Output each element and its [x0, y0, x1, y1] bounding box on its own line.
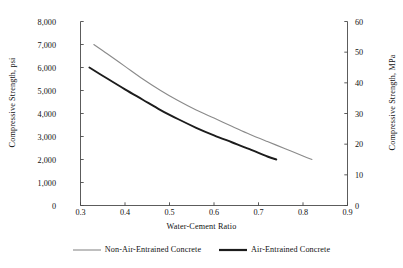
- legend-item-1[interactable]: Air-Entrained Concrete: [219, 245, 330, 254]
- legend-line-swatch: [73, 246, 101, 254]
- data-series-group: [89, 45, 312, 160]
- chart-figure: Compressive Strength, psi Compressive St…: [0, 0, 403, 268]
- series-line-1: [89, 68, 276, 160]
- legend-label: Non-Air-Entrained Concrete: [105, 245, 201, 254]
- chart-legend: Non-Air-Entrained ConcreteAir-Entrained …: [0, 245, 403, 254]
- plot-area: [0, 0, 403, 268]
- axis-spines: [81, 22, 348, 206]
- series-line-0: [94, 45, 312, 160]
- legend-label: Air-Entrained Concrete: [251, 245, 330, 254]
- legend-line-swatch: [219, 246, 247, 254]
- legend-item-0[interactable]: Non-Air-Entrained Concrete: [73, 245, 201, 254]
- axis-tick-marks: [81, 22, 348, 206]
